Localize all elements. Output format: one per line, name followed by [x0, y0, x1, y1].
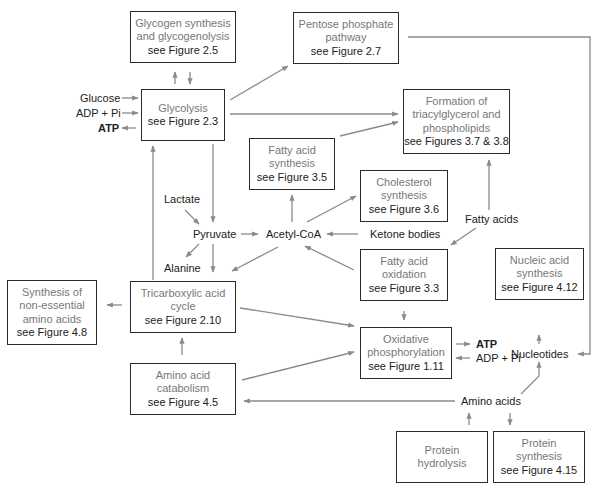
figure-reference: see Figure 2.5 — [148, 44, 218, 58]
box-protein-synthesis: Protein synthesis see Figure 4.15 — [493, 431, 585, 483]
box-oxidative-phosphorylation: Oxidative phosphorylation see Figure 1.1… — [360, 327, 452, 379]
figure-reference: see Figure 3.5 — [257, 171, 327, 185]
box-nucleic-acid-synthesis: Nucleic acid synthesis see Figure 4.12 — [495, 248, 584, 300]
box-title-line: synthesis — [516, 450, 562, 464]
figure-reference: see Figure 2.3 — [148, 115, 218, 129]
box-tca-cycle: Tricarboxylic acid cycle see Figure 2.10 — [130, 281, 236, 333]
box-title-line: pathway — [326, 31, 367, 45]
figure-reference: see Figure 3.6 — [369, 203, 439, 217]
figure-reference: see Figure 4.15 — [501, 464, 577, 478]
box-title-line: Protein — [425, 444, 460, 458]
box-title-line: Glycolysis — [158, 102, 208, 116]
box-title-line: catabolism — [157, 382, 210, 396]
box-title-line: amino acids — [23, 313, 82, 327]
box-title-line: Cholesterol — [376, 176, 432, 190]
box-title-line: Amino acid — [156, 369, 210, 383]
box-triacylglycerol-formation: Formation of triacylglycerol and phospho… — [403, 89, 510, 154]
box-title-line: Nucleic acid — [510, 254, 569, 268]
figure-reference: see Figure 2.10 — [145, 314, 221, 328]
figure-reference: see Figures 3.7 & 3.8 — [404, 135, 509, 149]
box-title-line: triacylglycerol and — [412, 108, 500, 122]
label-ketone-bodies: Ketone bodies — [370, 228, 440, 241]
box-title-line: Fatty acid — [380, 255, 428, 269]
box-title-line: Pentose phosphate — [299, 18, 394, 32]
label-alanine: Alanine — [164, 262, 201, 275]
box-title-line: Synthesis of — [22, 286, 82, 300]
figure-reference: see Figure 4.12 — [501, 281, 577, 295]
box-title-line: synthesis — [381, 189, 427, 203]
label-atp-glycolysis: ATP — [98, 122, 119, 135]
box-title-line: Formation of — [426, 95, 488, 109]
box-title-line: phosphorylation — [367, 346, 445, 360]
box-title-line: non-essential — [19, 299, 84, 313]
box-title-line: cycle — [170, 300, 195, 314]
box-fatty-acid-synthesis: Fatty acid synthesis see Figure 3.5 — [249, 138, 335, 190]
label-glucose: Glucose — [80, 92, 120, 105]
box-title-line: and glycogenolysis — [137, 30, 230, 44]
box-title-line: hydrolysis — [418, 457, 467, 471]
label-atp-oxphos: ATP — [476, 338, 497, 351]
box-title-line: Fatty acid — [268, 144, 316, 158]
label-adp-pi-glycolysis: ADP + Pi — [76, 107, 121, 120]
label-fatty-acids: Fatty acids — [465, 213, 518, 226]
box-title-line: Glycogen synthesis — [135, 17, 230, 31]
pathway-arrows — [0, 0, 599, 491]
figure-reference: see Figure 4.8 — [17, 326, 87, 340]
box-title-line: Protein — [522, 437, 557, 451]
box-glycogen-synthesis: Glycogen synthesis and glycogenolysis se… — [130, 11, 236, 63]
figure-reference: see Figure 4.5 — [148, 396, 218, 410]
box-cholesterol-synthesis: Cholesterol synthesis see Figure 3.6 — [360, 170, 448, 222]
box-title-line: synthesis — [517, 267, 563, 281]
figure-reference: see Figure 2.7 — [311, 45, 381, 59]
box-glycolysis: Glycolysis see Figure 2.3 — [141, 89, 225, 141]
box-protein-hydrolysis: Protein hydrolysis — [396, 431, 488, 483]
box-title-line: Oxidative — [383, 333, 429, 347]
box-amino-acid-catabolism: Amino acid catabolism see Figure 4.5 — [130, 363, 236, 415]
box-title-line: phospholipids — [423, 122, 490, 136]
label-lactate: Lactate — [164, 193, 200, 206]
figure-reference: see Figure 1.11 — [368, 360, 444, 374]
label-amino-acids: Amino acids — [461, 395, 521, 408]
figure-reference: see Figure 3.3 — [369, 282, 439, 296]
box-nonessential-amino-acids: Synthesis of non-essential amino acids s… — [7, 280, 97, 345]
box-title-line: synthesis — [269, 157, 315, 171]
box-title-line: oxidation — [382, 268, 426, 282]
box-title-line: Tricarboxylic acid — [141, 287, 226, 301]
label-pyruvate: Pyruvate — [193, 228, 236, 241]
label-adp-pi-oxphos: ADP + Pi — [476, 352, 521, 365]
box-pentose-phosphate: Pentose phosphate pathway see Figure 2.7 — [293, 12, 399, 64]
box-fatty-acid-oxidation: Fatty acid oxidation see Figure 3.3 — [360, 249, 448, 301]
label-acetyl-coa: Acetyl-CoA — [266, 228, 321, 241]
